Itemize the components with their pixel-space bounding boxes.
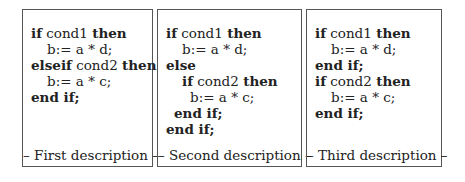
code-line: end if; <box>166 121 278 137</box>
keyword: then <box>92 25 126 41</box>
code-block: if cond1 thenb:= a * d;elseif cond2 then… <box>31 25 157 105</box>
keyword: end if; <box>166 121 214 137</box>
code-text: cond1 <box>326 25 376 41</box>
keyword: if <box>166 25 177 41</box>
code-block: if cond1 thenb:= a * d;elseif cond2 then… <box>166 25 278 137</box>
keyword: if <box>31 25 42 41</box>
code-line: b:= a * c; <box>166 89 278 105</box>
code-line: if cond1 then <box>315 25 411 41</box>
code-text: cond2 <box>326 73 376 89</box>
keyword: end if; <box>174 105 222 121</box>
code-line: if cond1 then <box>31 25 157 41</box>
panel-second: if cond1 thenb:= a * d;elseif cond2 then… <box>157 9 302 167</box>
keyword: if <box>315 73 326 89</box>
keyword: if <box>182 73 193 89</box>
code-line: elseif cond2 then <box>31 57 157 73</box>
panel-description: – Second description – <box>158 147 301 163</box>
code-line: b:= a * c; <box>31 73 157 89</box>
code-text: b:= a * d; <box>182 41 247 57</box>
code-line: end if; <box>166 105 278 121</box>
code-text: b:= a * c; <box>47 73 111 89</box>
code-text: b:= a * d; <box>331 41 396 57</box>
code-text: cond2 <box>193 73 243 89</box>
keyword: then <box>227 25 261 41</box>
code-block: if cond1 thenb:= a * d;end if;if cond2 t… <box>315 25 411 121</box>
code-text: cond1 <box>42 25 92 41</box>
panel-first: if cond1 thenb:= a * d;elseif cond2 then… <box>22 9 153 167</box>
code-line: if cond1 then <box>166 25 278 41</box>
code-line: b:= a * d; <box>31 41 157 57</box>
code-line: if cond2 then <box>166 73 278 89</box>
code-text: b:= a * d; <box>47 41 112 57</box>
code-line: b:= a * c; <box>315 89 411 105</box>
keyword: else <box>166 57 196 73</box>
code-line: end if; <box>315 105 411 121</box>
code-line: end if; <box>315 57 411 73</box>
keyword: end if; <box>31 89 79 105</box>
panel-description: – Third description – <box>307 147 441 163</box>
keyword: then <box>376 25 410 41</box>
code-line: b:= a * d; <box>166 41 278 57</box>
code-line: end if; <box>31 89 157 105</box>
keyword: end if; <box>315 57 363 73</box>
code-line: if cond2 then <box>315 73 411 89</box>
keyword: then <box>243 73 277 89</box>
code-text: cond2 <box>72 57 122 73</box>
panel-third: if cond1 thenb:= a * d;end if;if cond2 t… <box>306 9 442 167</box>
code-line: b:= a * d; <box>315 41 411 57</box>
keyword: then <box>122 57 156 73</box>
panel-description: – First description – <box>23 147 152 163</box>
keyword: if <box>315 25 326 41</box>
code-text: b:= a * c; <box>190 89 254 105</box>
keyword: then <box>376 73 410 89</box>
code-text: cond1 <box>177 25 227 41</box>
code-text: b:= a * c; <box>331 89 395 105</box>
keyword: end if; <box>315 105 363 121</box>
keyword: elseif <box>31 57 72 73</box>
code-line: else <box>166 57 278 73</box>
